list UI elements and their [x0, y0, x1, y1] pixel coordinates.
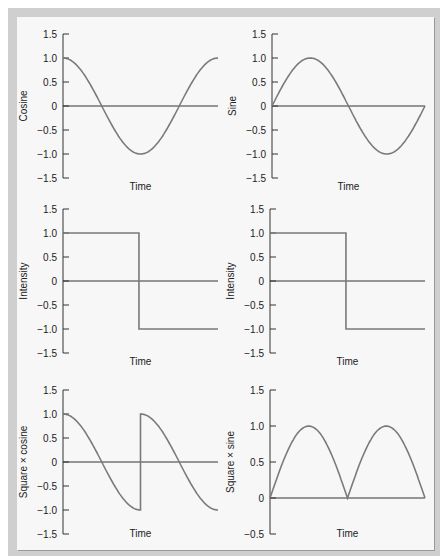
y-axis-label: Square × cosine: [18, 425, 29, 498]
tick-label: 0: [51, 457, 57, 468]
tick-label: −0.5: [244, 529, 264, 540]
tick-label: 0.5: [43, 433, 57, 444]
tick-label: 1.0: [250, 228, 264, 239]
tick-label: −0.5: [37, 300, 57, 311]
tick-label: 1.0: [250, 421, 264, 432]
x-axis-label: Time: [130, 356, 152, 367]
tick-label: −1.0: [246, 149, 266, 160]
tick-label: 0: [260, 101, 266, 112]
tick-label: 0.5: [250, 457, 264, 468]
chart-panel-3: 1.51.00.50−0.5−1.0−1.5TimeIntensity: [18, 204, 218, 368]
y-axis-label: Square × sine: [225, 431, 236, 493]
x-axis-label: Time: [130, 528, 152, 539]
tick-label: −1.5: [37, 348, 57, 359]
chart-panel-5: 1.51.00.50−0.5−1.0−1.5TimeSquare × cosin…: [18, 385, 218, 540]
tick-label: 0.5: [43, 77, 57, 88]
tick-label: −0.5: [246, 125, 266, 136]
tick-label: −1.5: [246, 173, 266, 184]
tick-label: 1.5: [250, 204, 264, 215]
figure-svg: 1.51.00.50−0.5−1.0−1.5TimeCosine1.51.00.…: [0, 0, 447, 557]
tick-label: 0: [51, 276, 57, 287]
tick-label: −0.5: [37, 125, 57, 136]
tick-label: 0: [51, 101, 57, 112]
y-axis-label: Intensity: [18, 262, 29, 299]
chart-panel-6: 1.51.00.50−0.5TimeSquare × sine: [225, 385, 425, 540]
tick-label: −1.5: [37, 529, 57, 540]
x-axis-label: Time: [337, 356, 359, 367]
chart-panel-1: 1.51.00.50−0.5−1.0−1.5TimeCosine: [18, 29, 218, 193]
tick-label: 0.5: [250, 252, 264, 263]
tick-label: 1.5: [250, 385, 264, 396]
tick-label: 0: [258, 276, 264, 287]
tick-label: −1.0: [37, 149, 57, 160]
data-curve: [270, 426, 425, 498]
x-axis-label: Time: [130, 181, 152, 192]
chart-panel-4: 1.51.00.50−0.5−1.0−1.5TimeIntensity: [225, 204, 425, 368]
y-axis-label: Intensity: [225, 262, 236, 299]
tick-label: −1.0: [244, 324, 264, 335]
tick-label: 1.5: [43, 29, 57, 40]
tick-label: 0.5: [43, 252, 57, 263]
y-axis-label: Sine: [227, 96, 238, 116]
tick-label: 1.5: [252, 29, 266, 40]
tick-label: −1.0: [37, 505, 57, 516]
tick-label: 1.5: [43, 385, 57, 396]
tick-label: −0.5: [37, 481, 57, 492]
tick-label: 1.0: [43, 228, 57, 239]
tick-label: 0: [258, 493, 264, 504]
tick-label: −1.0: [37, 324, 57, 335]
tick-label: 1.5: [43, 204, 57, 215]
tick-label: 1.0: [252, 53, 266, 64]
chart-panel-2: 1.51.00.50−0.5−1.0−1.5TimeSine: [227, 29, 425, 193]
tick-label: 1.0: [43, 409, 57, 420]
tick-label: 1.0: [43, 53, 57, 64]
tick-label: 0.5: [252, 77, 266, 88]
tick-label: −0.5: [244, 300, 264, 311]
x-axis-label: Time: [338, 181, 360, 192]
x-axis-label: Time: [337, 528, 359, 539]
tick-label: −1.5: [37, 173, 57, 184]
tick-label: −1.5: [244, 348, 264, 359]
y-axis-label: Cosine: [18, 90, 29, 122]
